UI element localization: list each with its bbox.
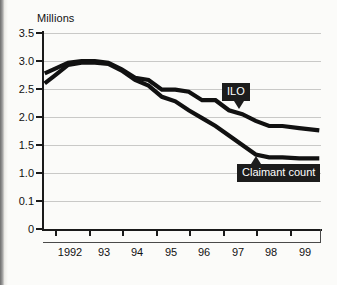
series-line-ilo xyxy=(45,61,320,130)
callout-pointer-down xyxy=(234,101,244,109)
callout-claimant-count: Claimant count xyxy=(237,164,320,182)
series-lines xyxy=(0,0,337,285)
chart-figure: Millions 3.53.02.52.01.51.00.10 19929394… xyxy=(0,0,337,285)
series-line-claimant-count xyxy=(45,63,320,159)
callout-ilo: ILO xyxy=(222,83,250,101)
callout-pointer-up xyxy=(251,156,261,164)
